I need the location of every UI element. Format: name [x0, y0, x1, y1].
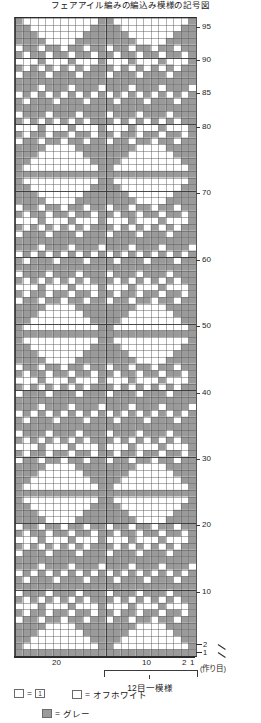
- legend-label-grey: グレー: [63, 707, 90, 719]
- legend-row-2: = グレー: [0, 705, 261, 722]
- edge-row-1: 1: [196, 648, 207, 657]
- edge-row-1-label: 1: [203, 648, 207, 657]
- row-tick: [196, 60, 200, 61]
- legend: = = オフホワイト = グレー: [0, 688, 261, 722]
- legend-item-symbol: =: [14, 688, 45, 698]
- repeat-bracket-line: [104, 670, 198, 677]
- row-label-90: 90: [202, 56, 211, 64]
- row-number-axis: 9590858070605040302010: [196, 17, 260, 655]
- repeat-bracket-tick: [149, 675, 150, 679]
- leader-slash-2: [218, 644, 226, 650]
- bottom-edge-row-markers: 2 1: [196, 640, 260, 664]
- row-tick: [196, 93, 200, 94]
- row-label-50: 50: [202, 322, 211, 330]
- col-label-20: 20: [52, 659, 61, 667]
- legend-swatch-blank: [14, 689, 24, 698]
- row-tick: [196, 193, 200, 194]
- row-tick: [196, 393, 200, 394]
- pattern-chart: [14, 17, 197, 657]
- row-tick: [196, 27, 200, 28]
- row-tick: [196, 127, 200, 128]
- legend-swatch-one: [35, 689, 45, 698]
- leader-dash-2: [196, 644, 202, 645]
- legend-equals-2: =: [85, 689, 90, 699]
- row-label-80: 80: [202, 123, 211, 131]
- row-label-10: 10: [202, 588, 211, 596]
- legend-item-grey: = グレー: [42, 707, 90, 719]
- legend-equals-1: =: [27, 688, 32, 698]
- row-label-95: 95: [202, 23, 211, 31]
- row-tick: [196, 459, 200, 460]
- pattern-grid-canvas: [14, 17, 197, 657]
- page-title: フェアアイル編みの編込み模様の記号図: [0, 0, 261, 10]
- row-tick: [196, 326, 200, 327]
- legend-swatch-grey: [42, 709, 52, 718]
- legend-equals-3: =: [55, 708, 60, 718]
- row-label-30: 30: [202, 455, 211, 463]
- axis-baseline: [14, 656, 195, 658]
- legend-swatch-offwhite: [72, 690, 82, 699]
- row-label-70: 70: [202, 189, 211, 197]
- row-label-60: 60: [202, 256, 211, 264]
- cast-on-note: (作り目): [200, 662, 226, 673]
- leader-slash-1: [218, 652, 226, 658]
- leader-dash-1: [196, 652, 202, 653]
- legend-row-1: = = オフホワイト: [0, 688, 261, 705]
- row-tick: [196, 260, 200, 261]
- legend-item-offwhite: = オフホワイト: [72, 688, 147, 700]
- row-tick: [196, 525, 200, 526]
- row-tick: [196, 592, 200, 593]
- row-label-20: 20: [202, 521, 211, 529]
- row-label-40: 40: [202, 389, 211, 397]
- legend-label-offwhite: オフホワイト: [93, 688, 147, 700]
- row-label-85: 85: [202, 89, 211, 97]
